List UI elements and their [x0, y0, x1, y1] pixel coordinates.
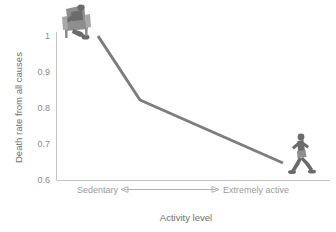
- x-range-right-label: Extremely active: [223, 185, 289, 195]
- y-tick-label-1: 1: [45, 31, 50, 41]
- y-tick-label-0.7: 0.7: [37, 139, 50, 149]
- activity-death-rate-chart: 1 0.9 0.8 0.7 0.6 Death rate from all ca…: [0, 0, 336, 232]
- y-tick-label-0.6: 0.6: [37, 175, 50, 185]
- chart-canvas: 1 0.9 0.8 0.7 0.6 Death rate from all ca…: [0, 0, 336, 232]
- x-axis-title: Activity level: [160, 212, 212, 223]
- y-tick-label-0.8: 0.8: [37, 103, 50, 113]
- y-tick-label-0.9: 0.9: [37, 67, 50, 77]
- y-axis-title: Death rate from all causes: [13, 52, 24, 163]
- death-rate-line-series: [98, 36, 283, 163]
- person-sitting-in-armchair-icon: [62, 5, 91, 40]
- person-running-icon: [288, 134, 316, 174]
- x-range-left-label: Sedentary: [77, 185, 119, 195]
